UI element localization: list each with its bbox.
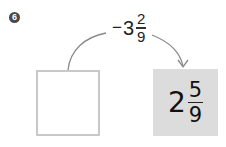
answer-input-box[interactable] (36, 70, 100, 136)
result-numerator: 5 (189, 80, 202, 100)
result-box: 2 5 9 (153, 69, 218, 136)
result-fraction: 5 9 (188, 80, 203, 126)
operation-denominator: 9 (137, 30, 145, 44)
result-whole: 2 (168, 86, 186, 119)
operation-whole: 3 (123, 17, 134, 40)
operation-fraction: 2 9 (136, 12, 146, 43)
result-denominator: 9 (189, 105, 202, 125)
operation-numerator: 2 (137, 12, 145, 26)
operation-label: − 3 2 9 (112, 11, 146, 45)
minus-sign: − (112, 18, 122, 38)
